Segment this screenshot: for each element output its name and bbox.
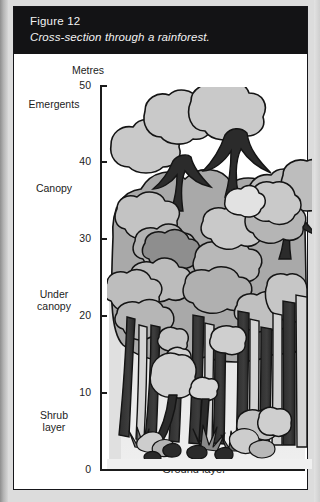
sapling-crown-2 bbox=[210, 326, 246, 355]
figure-frame: Figure 12 Cross-section through a rainfo… bbox=[13, 6, 308, 490]
y-tick-label-0: 0 bbox=[69, 463, 91, 475]
y-tick-30 bbox=[100, 238, 107, 240]
figure-number: Figure 12 bbox=[30, 14, 307, 29]
axis-unit-label: Metres bbox=[72, 64, 104, 76]
y-axis-line bbox=[100, 85, 102, 471]
figure-caption-text: Cross-section through a rainforest. bbox=[30, 29, 307, 45]
figure-caption-band: Figure 12 Cross-section through a rainfo… bbox=[14, 7, 307, 54]
y-tick-label-10: 10 bbox=[69, 386, 91, 398]
broad-leaf-4 bbox=[249, 440, 275, 458]
y-tick-50 bbox=[100, 85, 107, 87]
ground-base bbox=[107, 459, 312, 469]
diagram-plot-area: Metres 50 40 30 20 10 0 Emergents Canopy… bbox=[14, 54, 307, 489]
page-background: Figure 12 Cross-section through a rainfo… bbox=[0, 0, 320, 502]
y-tick-40 bbox=[100, 161, 107, 163]
y-tick-label-30: 30 bbox=[69, 232, 91, 244]
rainforest-cross-section-illustration bbox=[107, 87, 312, 469]
y-tick-10 bbox=[100, 392, 107, 394]
y-tick-label-50: 50 bbox=[69, 79, 91, 91]
layer-label-under-canopy-line2: canopy bbox=[16, 300, 92, 313]
layer-label-emergents: Emergents bbox=[16, 98, 92, 111]
layer-label-shrub-line2: layer bbox=[16, 421, 92, 434]
y-tick-label-40: 40 bbox=[69, 155, 91, 167]
leaf-litter-2 bbox=[187, 445, 207, 459]
page-gutter-left bbox=[0, 0, 8, 502]
leaf-litter-1 bbox=[163, 443, 181, 457]
trunk-light-5 bbox=[296, 295, 307, 447]
layer-label-canopy: Canopy bbox=[16, 182, 92, 195]
sapling-crown-small bbox=[189, 377, 218, 400]
page-gutter-right bbox=[314, 0, 320, 502]
shrub-crown-right-2 bbox=[258, 407, 292, 436]
y-tick-20 bbox=[100, 315, 107, 317]
layer-label-under-canopy-line1: Under bbox=[16, 288, 92, 301]
layer-label-shrub-line1: Shrub bbox=[16, 409, 92, 422]
